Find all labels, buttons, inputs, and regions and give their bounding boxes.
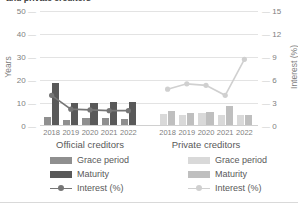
y2-tick: — 3	[262, 99, 284, 108]
legend-item-grace-official: Grace period	[50, 154, 129, 166]
y-tick: 50 —	[12, 7, 36, 16]
y-tick: 10 —	[12, 99, 36, 108]
legend-item-maturity-official: Maturity	[50, 168, 129, 180]
legend-item-maturity-private: Maturity	[188, 168, 267, 180]
interest-data-point	[223, 93, 228, 98]
grace-period-swatch-icon	[50, 157, 72, 164]
chart-container: and private creditors Years Interest (%)…	[0, 0, 298, 204]
footer-divider	[0, 202, 298, 203]
y2-tick-label: 6	[272, 76, 276, 85]
interest-data-point	[126, 108, 131, 113]
plot-area	[40, 11, 258, 126]
y-tick: 0 —	[12, 122, 36, 131]
interest-data-point	[203, 83, 208, 88]
x-tick-label: 2020	[82, 128, 99, 137]
maturity-swatch-icon	[188, 171, 210, 178]
x-tick-label: 2022	[120, 128, 137, 137]
legend-label-grace-private: Grace period	[215, 156, 267, 165]
y-tick-label: 20	[17, 76, 26, 85]
y2-tick-label: 0	[272, 122, 276, 131]
x-tick-label: 2022	[236, 128, 253, 137]
interest-data-point	[68, 107, 73, 112]
grace-period-swatch-icon	[188, 157, 210, 164]
y2-tick-label: 3	[272, 99, 276, 108]
legend-label-interest-private: Interest (%)	[215, 184, 262, 193]
legend-item-interest-private: Interest (%)	[188, 182, 267, 194]
interest-data-point	[49, 93, 54, 98]
y2-tick: — 0	[262, 122, 284, 131]
y2-tick: — 12	[262, 30, 284, 39]
y-tick-label: 10	[17, 99, 26, 108]
y2-tick-label: 12	[272, 30, 281, 39]
legend-item-grace-private: Grace period	[188, 154, 267, 166]
legend-official-creditors: Grace period Maturity Interest (%)	[50, 154, 129, 196]
interest-data-point	[242, 57, 247, 62]
legend-label-maturity-private: Maturity	[215, 170, 247, 179]
group-label: Official creditors	[56, 139, 124, 150]
y-tick-label: 30	[17, 53, 26, 62]
y2-tick: — 15	[262, 7, 284, 16]
axis-baseline	[40, 125, 258, 126]
interest-lines-layer	[40, 11, 258, 126]
y-tick: 40 —	[12, 30, 36, 39]
x-tick-label: 2019	[178, 128, 195, 137]
y-tick: 20 —	[12, 76, 36, 85]
x-tick-label: 2018	[43, 128, 60, 137]
y-tick-label: 40	[17, 30, 26, 39]
legend-label-grace-official: Grace period	[77, 156, 129, 165]
chart-title: and private creditors	[6, 0, 91, 3]
x-tick-label: 2021	[217, 128, 234, 137]
interest-data-point	[165, 87, 170, 92]
y2-tick-label: 15	[272, 7, 281, 16]
maturity-swatch-icon	[50, 171, 72, 178]
group-label: Private creditors	[172, 139, 241, 150]
interest-data-point	[184, 81, 189, 86]
y2-axis-title: Interest (%)	[289, 45, 298, 89]
y-tick-label: 0	[21, 122, 25, 131]
y2-tick: — 9	[262, 53, 284, 62]
interest-line	[168, 59, 245, 95]
interest-line-swatch-icon	[50, 184, 72, 193]
interest-data-point	[87, 107, 92, 112]
x-tick-label: 2019	[62, 128, 79, 137]
y-tick-label: 50	[17, 7, 26, 16]
legend-private-creditors: Grace period Maturity Interest (%)	[188, 154, 267, 196]
legend-label-maturity-official: Maturity	[77, 170, 109, 179]
y2-tick: — 6	[262, 76, 284, 85]
legend-item-interest-official: Interest (%)	[50, 182, 129, 194]
x-tick-label: 2020	[198, 128, 215, 137]
x-tick-label: 2021	[101, 128, 118, 137]
y2-tick-label: 9	[272, 53, 276, 62]
x-tick-label: 2018	[159, 128, 176, 137]
interest-line-swatch-icon	[188, 184, 210, 193]
y-tick: 30 —	[12, 53, 36, 62]
legend-label-interest-official: Interest (%)	[77, 184, 124, 193]
interest-data-point	[107, 108, 112, 113]
